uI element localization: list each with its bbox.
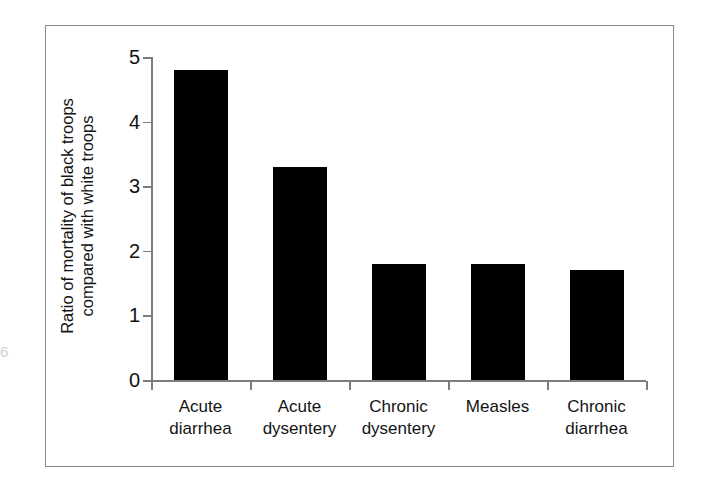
page-edge-artifact: 6	[0, 341, 10, 363]
bar	[471, 264, 525, 380]
x-axis-label-line: Chronic	[349, 396, 448, 418]
bar	[570, 270, 624, 380]
x-axis-tick-mark	[448, 381, 450, 390]
x-axis-label: Measles	[448, 396, 547, 418]
y-axis-title-line-2: compared with white troops	[77, 51, 97, 381]
x-axis-label-line: Acute	[151, 396, 250, 418]
chart-plot-area: Ratio of mortality of black troops compa…	[151, 51, 646, 380]
x-axis-label-line: Chronic	[547, 396, 646, 418]
y-axis-tick-label: 0	[129, 370, 140, 390]
x-axis-label: Acutediarrhea	[151, 396, 250, 440]
y-axis-title: Ratio of mortality of black troops compa…	[57, 51, 97, 381]
x-axis-tick-mark	[250, 381, 252, 390]
x-axis-label-line: dysentery	[349, 418, 448, 440]
x-axis-line	[143, 380, 646, 382]
x-axis-label-line: diarrhea	[151, 418, 250, 440]
x-axis-label-line: Measles	[448, 396, 547, 418]
y-axis-tick-label: 4	[129, 112, 140, 132]
x-axis-label-line: dysentery	[250, 418, 349, 440]
bar	[273, 167, 327, 380]
x-axis-tick-mark	[349, 381, 351, 390]
x-axis-label-line: Acute	[250, 396, 349, 418]
y-axis-tick-label: 2	[129, 241, 140, 261]
y-axis-title-line-1: Ratio of mortality of black troops	[57, 51, 77, 381]
x-axis-tick-mark	[547, 381, 549, 390]
x-axis-label-line: diarrhea	[547, 418, 646, 440]
y-axis-tick-label: 1	[129, 305, 140, 325]
figure-frame: Ratio of mortality of black troops compa…	[45, 25, 674, 467]
x-axis-tick-mark	[646, 381, 648, 390]
x-axis-label: Acutedysentery	[250, 396, 349, 440]
x-axis-labels: AcutediarrheaAcutedysenteryChronicdysent…	[151, 396, 646, 456]
bar	[372, 264, 426, 380]
x-axis-label: Chronicdiarrhea	[547, 396, 646, 440]
y-axis-tick-label: 3	[129, 176, 140, 196]
bar-series	[151, 51, 646, 380]
x-axis-label: Chronicdysentery	[349, 396, 448, 440]
x-axis-tick-mark	[151, 381, 153, 390]
y-axis-tick-label: 5	[129, 47, 140, 67]
bar	[174, 70, 228, 380]
